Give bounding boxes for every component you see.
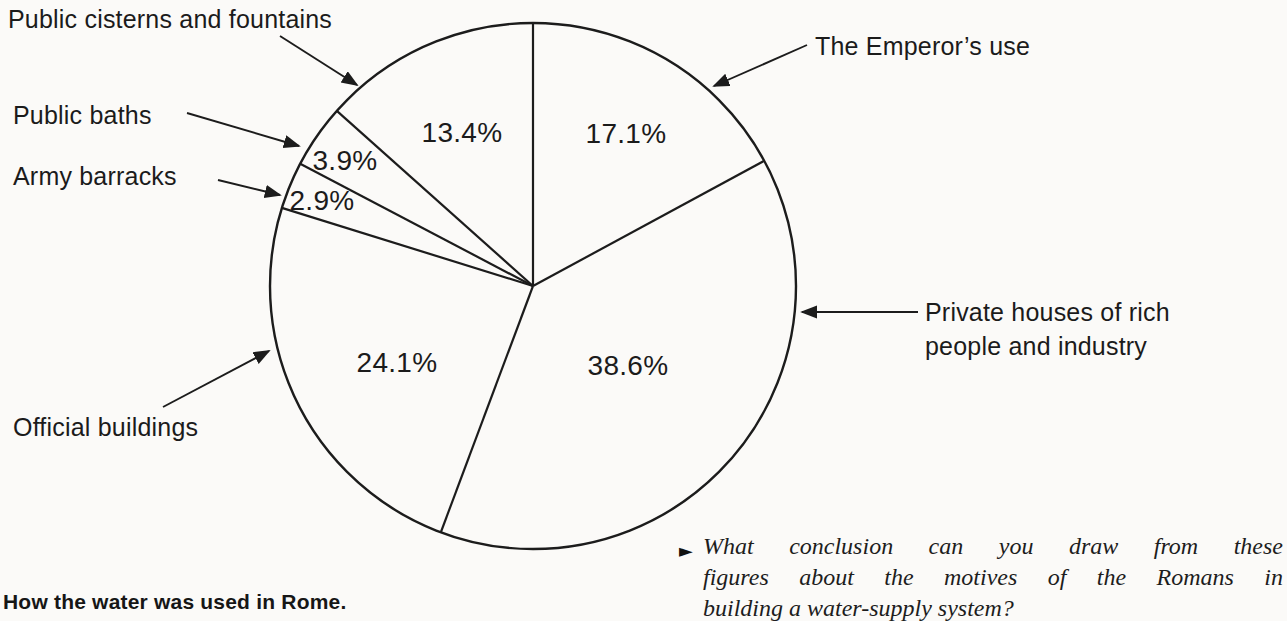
slice-percent-cisterns: 13.4%: [422, 119, 503, 147]
figure-caption: How the water was used in Rome.: [3, 590, 346, 614]
callout-arrow: [218, 180, 280, 195]
question-block: ► What conclusion can you draw from thes…: [679, 531, 1283, 621]
question-text: What conclusion can you draw from these …: [703, 531, 1283, 621]
slice-label-army: Army barracks: [13, 159, 177, 193]
slice-percent-private: 38.6%: [588, 352, 669, 380]
slice-label-private: Private houses of rich people and indust…: [925, 295, 1193, 363]
slice-label-emperor: The Emperor’s use: [815, 29, 1030, 63]
slice-percent-emperor: 17.1%: [586, 120, 667, 148]
callout-arrow: [187, 113, 299, 146]
question-line: figures about the motives of the Romans …: [703, 562, 1283, 593]
question-bullet-icon: ►: [679, 535, 693, 566]
slice-label-cisterns: Public cisterns and fountains: [8, 2, 332, 36]
question-line: What conclusion can you draw from these: [703, 531, 1283, 562]
question-line: building a water-supply system?: [703, 593, 1283, 621]
slice-percent-official: 24.1%: [357, 349, 438, 377]
slice-boundary-line: [533, 161, 764, 286]
slice-percent-baths: 3.9%: [312, 147, 377, 175]
callout-arrow: [714, 45, 807, 86]
callout-arrow: [163, 351, 269, 407]
slice-label-official: Official buildings: [13, 410, 198, 444]
slice-label-baths: Public baths: [13, 98, 152, 132]
slice-boundary-line: [441, 286, 533, 532]
slice-percent-army: 2.9%: [289, 187, 354, 215]
callout-arrow: [280, 36, 357, 85]
